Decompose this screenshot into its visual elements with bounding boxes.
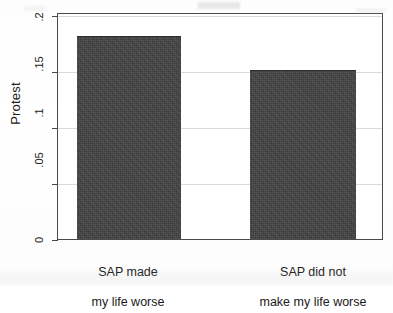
y-tick-label-0: 0	[33, 223, 45, 257]
y-tick-mark-0	[52, 240, 58, 241]
bar-sap-did-not-make-my-life-worse[interactable]	[250, 70, 356, 239]
x-category-label-1: SAP did not make my life worse	[238, 250, 388, 313]
x-category-label-1-line-1: SAP did not	[238, 265, 388, 280]
y-tick-label-02: .2	[33, 0, 45, 34]
plot-area	[57, 13, 383, 240]
x-category-label-0: SAP made my life worse	[68, 250, 188, 313]
gridline-02	[58, 16, 382, 17]
x-category-label-0-line-1: SAP made	[68, 265, 188, 280]
scan-artifact-top	[198, 2, 240, 9]
y-tick-label-015: .15	[33, 47, 45, 81]
x-category-label-1-line-2: make my life worse	[238, 295, 388, 310]
y-tick-label-01: .1	[33, 96, 45, 130]
x-category-label-0-line-2: my life worse	[68, 295, 188, 310]
y-tick-label-005: .05	[33, 143, 45, 177]
bar-sap-made-my-life-worse[interactable]	[77, 36, 181, 239]
y-axis-title: Protest	[8, 59, 23, 149]
